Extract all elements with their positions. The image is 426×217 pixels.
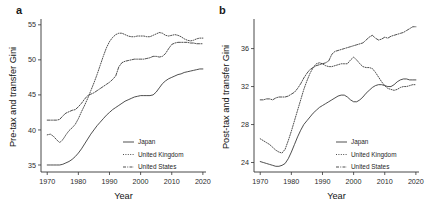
x-axis-title: Year xyxy=(327,191,346,201)
panel-a-label: a xyxy=(16,4,22,16)
x-tick-label: 1970 xyxy=(252,177,268,186)
y-axis-title: Pre-tax and transfer Gini xyxy=(8,47,18,147)
y-tick-label: 40 xyxy=(28,126,36,135)
x-tick-label: 1990 xyxy=(314,177,330,186)
panel-b-label: b xyxy=(219,4,226,16)
y-tick-label: 24 xyxy=(241,158,249,167)
plot-area: 24283236197019801990200020102020YearPost… xyxy=(221,19,424,201)
y-tick-label: 50 xyxy=(28,55,36,64)
y-tick-label: 32 xyxy=(241,82,249,91)
x-tick-label: 2010 xyxy=(377,177,393,186)
legend-label-japan: Japan xyxy=(351,138,369,146)
x-tick-label: 2000 xyxy=(346,177,362,186)
figure-container: a 3540455055197019801990200020102020Year… xyxy=(0,0,426,217)
x-tick-label: 2010 xyxy=(164,177,180,186)
y-tick-label: 55 xyxy=(28,20,36,29)
y-tick-label: 35 xyxy=(28,161,36,170)
panel-b: b 24283236197019801990200020102020YearPo… xyxy=(213,0,426,217)
x-tick-label: 2020 xyxy=(195,177,211,186)
x-axis-title: Year xyxy=(114,191,133,201)
panel-b-plot: 24283236197019801990200020102020YearPost… xyxy=(213,0,426,217)
legend-label-united-kingdom: United Kingdom xyxy=(351,151,396,159)
legend: JapanUnited KingdomUnited States xyxy=(336,138,396,170)
y-axis-title: Post-tax and transfer Gini xyxy=(221,45,231,149)
panel-a: a 3540455055197019801990200020102020Year… xyxy=(0,0,213,217)
legend-label-united-states: United States xyxy=(138,163,176,170)
plot-area: 3540455055197019801990200020102020YearPr… xyxy=(8,19,211,201)
series-line-united-kingdom xyxy=(47,33,203,143)
series-line-united-states xyxy=(47,42,203,120)
legend-label-united-kingdom: United Kingdom xyxy=(138,151,183,159)
x-tick-label: 2020 xyxy=(408,177,424,186)
x-tick-label: 2000 xyxy=(133,177,149,186)
panel-a-plot: 3540455055197019801990200020102020YearPr… xyxy=(0,0,213,217)
y-tick-label: 28 xyxy=(241,120,249,129)
legend: JapanUnited KingdomUnited States xyxy=(123,138,183,170)
legend-label-japan: Japan xyxy=(138,138,156,146)
x-tick-label: 1990 xyxy=(101,177,117,186)
legend-label-united-states: United States xyxy=(351,163,389,170)
x-tick-label: 1980 xyxy=(70,177,86,186)
y-tick-label: 36 xyxy=(241,44,249,53)
x-tick-label: 1970 xyxy=(39,177,55,186)
series-line-united-states xyxy=(260,27,416,100)
x-tick-label: 1980 xyxy=(283,177,299,186)
series-line-united-kingdom xyxy=(260,57,416,153)
y-tick-label: 45 xyxy=(28,90,36,99)
